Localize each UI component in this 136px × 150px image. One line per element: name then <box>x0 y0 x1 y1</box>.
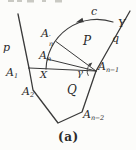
label-vertex-An-1: An−1 <box>98 61 119 74</box>
label-region-Q: Q <box>67 84 77 96</box>
label-vertex-A1: A1 <box>6 67 18 80</box>
label-region-P: P <box>83 35 91 47</box>
label-point-Y: Y <box>118 18 125 29</box>
label-vertex-A2: A2 <box>22 86 34 99</box>
figure-background <box>0 0 136 150</box>
label-curve-c: c <box>91 6 97 17</box>
label-vertex-An-2: An−2 <box>83 109 104 122</box>
label-vertex-An: An <box>39 50 51 63</box>
figure-caption: (a) <box>58 131 79 143</box>
figure-drawing <box>0 0 136 150</box>
label-vertex-An-prime: A′n <box>41 28 53 47</box>
label-angle-gamma: γ <box>77 68 83 78</box>
label-point-X: X <box>40 70 47 80</box>
label-line-q: q <box>112 33 119 44</box>
label-line-p: p <box>3 42 10 53</box>
math-figure: p c Y q P Q X γ A′n An A1 A2 An−1 An−2 (… <box>0 0 136 150</box>
